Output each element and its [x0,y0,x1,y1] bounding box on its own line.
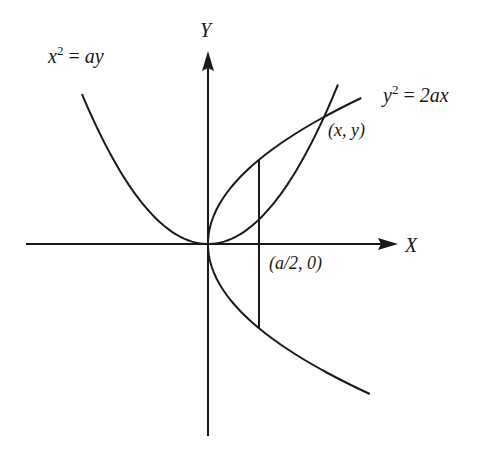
eq1-rhs: ay [85,45,104,67]
eq2-exponent: 2 [392,82,399,97]
parabola-y2-2ax [208,98,370,394]
diagram-svg [0,0,490,457]
eq1-equals: = [68,45,79,67]
y-axis-arrow-icon [202,51,214,71]
equation-x2-ay: x2 = ay [48,44,104,66]
y-axis-label: Y [200,20,211,40]
eq1-exponent: 2 [57,43,64,58]
eq2-rhs: 2ax [420,84,449,106]
parabola-x2-ay [82,85,338,245]
x-axis-label: X [405,235,417,255]
diagram-canvas: Y X x2 = ay y2 = 2ax (x, y) (a/2, 0) [0,0,490,457]
eq2-equals: = [403,84,414,106]
a-half-point-label: (a/2, 0) [269,254,322,272]
eq1-base: x [48,45,57,67]
x-axis-arrow-icon [378,238,398,250]
eq2-base: y [383,84,392,106]
intersection-point-label: (x, y) [328,121,365,139]
equation-y2-2ax: y2 = 2ax [383,83,449,105]
